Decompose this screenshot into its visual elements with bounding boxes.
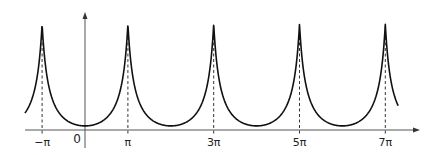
curve-series: [25, 24, 398, 126]
x-tick-label: 3π: [207, 136, 221, 149]
y-axis-arrow-icon: [83, 12, 88, 19]
x-axis-arrow-icon: [413, 128, 420, 133]
peak-dashed-lines: [42, 26, 385, 134]
chart: −π0π3π5π7π: [0, 0, 440, 155]
x-tick-label: 5π: [293, 136, 307, 149]
x-tick-labels: −π0π3π5π7π: [34, 132, 392, 149]
x-tick-label: −π: [34, 136, 50, 149]
x-tick-label: 0: [73, 132, 81, 146]
x-tick-label: 7π: [378, 136, 392, 149]
x-tick-label: π: [125, 136, 132, 149]
